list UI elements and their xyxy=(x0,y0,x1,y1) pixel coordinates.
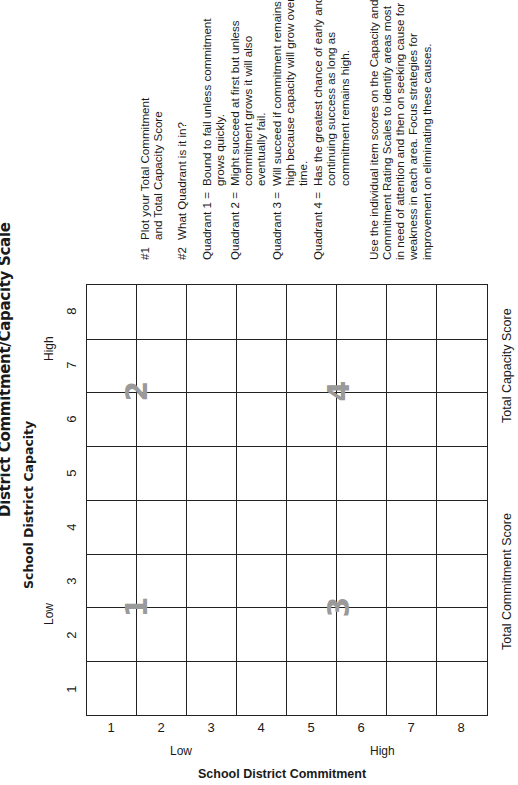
grid-cell[interactable] xyxy=(387,554,437,608)
step-1-line-1: Plot your Total Commitment xyxy=(138,98,151,240)
grid-cell[interactable] xyxy=(137,500,187,554)
capacity-low-label: Low xyxy=(42,603,56,625)
grid-cell[interactable] xyxy=(237,661,287,715)
improvement-note: Use the individual item scores on the Ca… xyxy=(367,0,433,260)
commitment-tick-3: 3 xyxy=(203,720,219,736)
quadrant-number-1: 1 xyxy=(119,592,155,622)
quadrant-4-text: Has the greatest chance of early and con… xyxy=(311,0,351,186)
commitment-tick-5: 5 xyxy=(303,720,319,736)
grid-cell[interactable] xyxy=(337,285,387,339)
grid-cell[interactable] xyxy=(437,608,487,662)
capacity-tick-1: 1 xyxy=(64,679,79,699)
grid-cell[interactable] xyxy=(437,393,487,447)
grid-cell[interactable] xyxy=(387,393,437,447)
total-commitment-score-label: Total Commitment Score xyxy=(500,513,514,650)
grid-cell[interactable] xyxy=(287,285,337,339)
grid-cell[interactable] xyxy=(87,446,137,500)
capacity-high-label: High xyxy=(42,336,56,361)
capacity-tick-7: 7 xyxy=(64,355,79,375)
grid-cell[interactable] xyxy=(387,446,437,500)
capacity-axis-title: School District Capacity xyxy=(21,421,36,589)
grid-cell[interactable] xyxy=(287,446,337,500)
quadrant-2-label: Quadrant 2 = xyxy=(228,186,268,260)
capacity-tick-8: 8 xyxy=(64,301,79,321)
commitment-tick-1: 1 xyxy=(103,720,119,736)
quadrant-2-description: Quadrant 2 = Might succeed at first but … xyxy=(228,0,268,260)
grid-cell[interactable] xyxy=(187,608,237,662)
instructions-panel: #1 Plot your Total Commitment and Total … xyxy=(138,0,433,260)
grid-cell[interactable] xyxy=(187,500,237,554)
grid-cell[interactable] xyxy=(87,500,137,554)
grid-cell[interactable] xyxy=(437,339,487,393)
grid-cell[interactable] xyxy=(437,661,487,715)
grid-cell[interactable] xyxy=(137,446,187,500)
quadrant-4-label: Quadrant 4 = xyxy=(311,186,351,260)
quadrant-3-description: Quadrant 3 = Will succeed if commitment … xyxy=(270,0,310,260)
commitment-tick-4: 4 xyxy=(253,720,269,736)
grid-cell[interactable] xyxy=(187,661,237,715)
grid-cell[interactable] xyxy=(187,339,237,393)
quadrant-number-4: 4 xyxy=(321,376,357,406)
commitment-tick-6: 6 xyxy=(353,720,369,736)
step-1-number: #1 xyxy=(138,240,164,260)
grid-cell[interactable] xyxy=(187,285,237,339)
quadrant-1-text: Bound to fail unless commitment grows qu… xyxy=(200,0,226,186)
commitment-tick-2: 2 xyxy=(153,720,169,736)
commitment-tick-7: 7 xyxy=(403,720,419,736)
quadrant-1-description: Quadrant 1 = Bound to fail unless commit… xyxy=(200,0,226,260)
grid-cell[interactable] xyxy=(387,285,437,339)
grid-cell[interactable] xyxy=(87,661,137,715)
grid-cell[interactable] xyxy=(337,446,387,500)
grid-cell[interactable] xyxy=(137,285,187,339)
capacity-tick-3: 3 xyxy=(64,571,79,591)
step-1: #1 Plot your Total Commitment and Total … xyxy=(138,0,164,260)
total-capacity-score-label: Total Capacity Score xyxy=(500,308,514,423)
quadrant-number-3: 3 xyxy=(321,592,357,622)
quadrant-3-text: Will succeed if commitment remains high … xyxy=(270,0,310,186)
capacity-tick-6: 6 xyxy=(64,409,79,429)
grid-cell[interactable] xyxy=(237,500,287,554)
commitment-axis-title: School District Commitment xyxy=(198,767,366,781)
commitment-tick-8: 8 xyxy=(453,720,469,736)
step-2: #2 What Quadrant is it in? xyxy=(175,0,188,260)
grid-cell[interactable] xyxy=(437,285,487,339)
grid-cell[interactable] xyxy=(287,500,337,554)
grid-cell[interactable] xyxy=(187,393,237,447)
grid-cell[interactable] xyxy=(387,608,437,662)
grid-cell[interactable] xyxy=(387,661,437,715)
grid-cell[interactable] xyxy=(387,339,437,393)
quadrant-4-description: Quadrant 4 = Has the greatest chance of … xyxy=(311,0,351,260)
grid-cell[interactable] xyxy=(437,446,487,500)
commitment-low-label: Low xyxy=(170,744,192,758)
grid-cell[interactable] xyxy=(337,661,387,715)
grid-cell[interactable] xyxy=(237,608,287,662)
quadrant-3-label: Quadrant 3 = xyxy=(270,186,310,260)
grid-cell[interactable] xyxy=(287,661,337,715)
plot-grid[interactable] xyxy=(86,284,488,716)
capacity-tick-4: 4 xyxy=(64,517,79,537)
grid-cell[interactable] xyxy=(137,661,187,715)
step-1-line-2: and Total Capacity Score xyxy=(151,98,164,240)
grid-cell[interactable] xyxy=(237,446,287,500)
quadrant-number-2: 2 xyxy=(119,376,155,406)
quadrant-1-label: Quadrant 1 = xyxy=(200,186,226,260)
grid-cell[interactable] xyxy=(237,339,287,393)
grid-cell[interactable] xyxy=(437,554,487,608)
quadrant-2-text: Might succeed at first but unless commit… xyxy=(228,0,268,186)
grid-cell[interactable] xyxy=(187,446,237,500)
grid-cell[interactable] xyxy=(237,554,287,608)
grid-cell[interactable] xyxy=(337,500,387,554)
grid-cell[interactable] xyxy=(387,500,437,554)
grid-cell[interactable] xyxy=(237,285,287,339)
capacity-tick-5: 5 xyxy=(64,463,79,483)
grid-cell[interactable] xyxy=(437,500,487,554)
step-2-text: What Quadrant is it in? xyxy=(175,122,188,240)
grid-cell[interactable] xyxy=(237,393,287,447)
scale-worksheet-page: District Commitment/Capacity Scale Schoo… xyxy=(0,0,518,785)
page-title: District Commitment/Capacity Scale xyxy=(0,222,14,517)
grid-cell[interactable] xyxy=(187,554,237,608)
commitment-high-label: High xyxy=(370,744,395,758)
step-2-number: #2 xyxy=(175,240,188,260)
capacity-tick-2: 2 xyxy=(64,625,79,645)
grid-cell[interactable] xyxy=(87,285,137,339)
